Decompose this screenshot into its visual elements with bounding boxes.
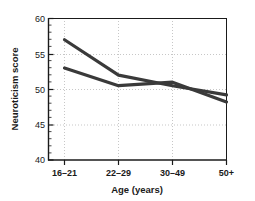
x-major-ticks	[65, 160, 227, 165]
y-tick-label-50: 50	[35, 85, 45, 95]
y-tick-label-60: 60	[35, 14, 45, 24]
x-axis-title: Age (years)	[111, 184, 163, 195]
y-tick-label-55: 55	[35, 50, 45, 60]
chart-figure: 60 55 50 45 40 16–21 22–29 30–49 50+ Age…	[0, 0, 255, 201]
x-tick-label-22-29: 22–29	[106, 168, 131, 178]
y-axis-title: Neuroticism score	[9, 48, 20, 131]
line-chart: 60 55 50 45 40 16–21 22–29 30–49 50+ Age…	[0, 0, 255, 201]
x-tick-label-30-49: 30–49	[160, 168, 185, 178]
y-tick-label-45: 45	[35, 120, 45, 130]
y-tick-label-40: 40	[35, 155, 45, 165]
x-tick-label-16-21: 16–21	[52, 168, 77, 178]
x-tick-label-50-plus: 50+	[219, 168, 234, 178]
